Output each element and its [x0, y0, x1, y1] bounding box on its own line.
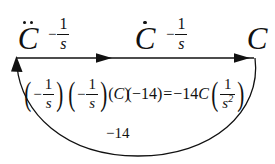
feedback-arrowhead-icon — [11, 56, 23, 72]
gain-1-minus-sign: − — [48, 27, 56, 42]
equation-equals-sign: = — [163, 85, 172, 103]
gain-1-numerator: 1 — [57, 16, 69, 33]
forward-arrowhead-1-icon — [96, 53, 112, 63]
factor-1-fraction: 1 s — [43, 77, 55, 111]
gain-2-fraction: 1 s — [175, 16, 187, 52]
rhs-variable: C — [198, 85, 209, 103]
node-c-single-dot-letter: C — [128, 23, 162, 54]
factor-1-minus-sign: − — [33, 87, 41, 102]
factor-2-numerator: 1 — [86, 77, 98, 93]
gain-2-denominator: s — [175, 36, 187, 53]
node-c-double-dot-letter: C — [11, 23, 45, 54]
gain-1-fraction: 1 s — [57, 16, 69, 52]
gain-2-minus-sign: − — [166, 27, 174, 42]
feedback-gain-label: −14 — [106, 126, 129, 141]
rhs-numerator: 1 — [220, 77, 235, 93]
derivation-equation: ( − 1 s ) ( − 1 s ) — [22, 72, 254, 116]
factor-2-denominator: s — [86, 96, 98, 112]
factor-1-numerator: 1 — [43, 77, 55, 93]
rhs-denominator-exponent: 2 — [228, 93, 233, 104]
rhs-denominator-group: s2 — [220, 96, 235, 112]
factor-3-variable: C — [114, 85, 125, 103]
factor-1-denominator: s — [43, 96, 55, 112]
node-c-plain-letter: C — [240, 23, 274, 54]
node-c-double-dot: C — [11, 14, 45, 54]
equation-factor-1: ( − 1 s ) — [22, 77, 66, 111]
gain-2-numerator: 1 — [175, 16, 187, 33]
equation-factor-2: ( − 1 s ) — [66, 77, 110, 111]
equation-diagram-canvas: C − 1 s C − 1 s C — [0, 0, 275, 164]
gain-1-denominator: s — [57, 36, 69, 53]
factor-4-close-paren: ) — [157, 85, 162, 103]
node-c-plain: C — [240, 14, 274, 54]
factor-4-value: −14 — [132, 85, 157, 103]
factor-2-close-paren: ) — [100, 82, 107, 106]
factor-2-fraction: 1 s — [86, 77, 98, 111]
rhs-fraction-term: ( 1 s2 ) — [209, 77, 247, 111]
factor-1-open-paren: ( — [24, 82, 31, 106]
rhs-close-paren: ) — [237, 82, 244, 106]
rhs-open-paren: ( — [211, 82, 218, 106]
node-c-single-dot: C — [128, 14, 162, 54]
factor-2-minus-sign: − — [77, 87, 85, 102]
rhs-fraction: 1 s2 — [220, 77, 235, 111]
factor-2-open-paren: ( — [68, 82, 75, 106]
forward-gain-1: − 1 s — [48, 16, 69, 52]
rhs-coefficient: −14 — [173, 85, 198, 103]
factor-1-close-paren: ) — [56, 82, 63, 106]
equation-factor-4: ( −14 ) — [127, 85, 163, 103]
forward-gain-2: − 1 s — [166, 16, 187, 52]
